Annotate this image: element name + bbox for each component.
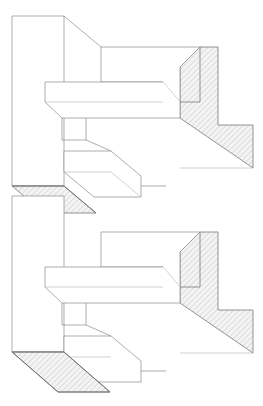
- upper-lower-slab-face: [45, 82, 180, 118]
- technical-section-drawing: [0, 0, 263, 406]
- lower-lower-slab-face: [45, 267, 180, 303]
- drawing-canvas: [0, 0, 263, 406]
